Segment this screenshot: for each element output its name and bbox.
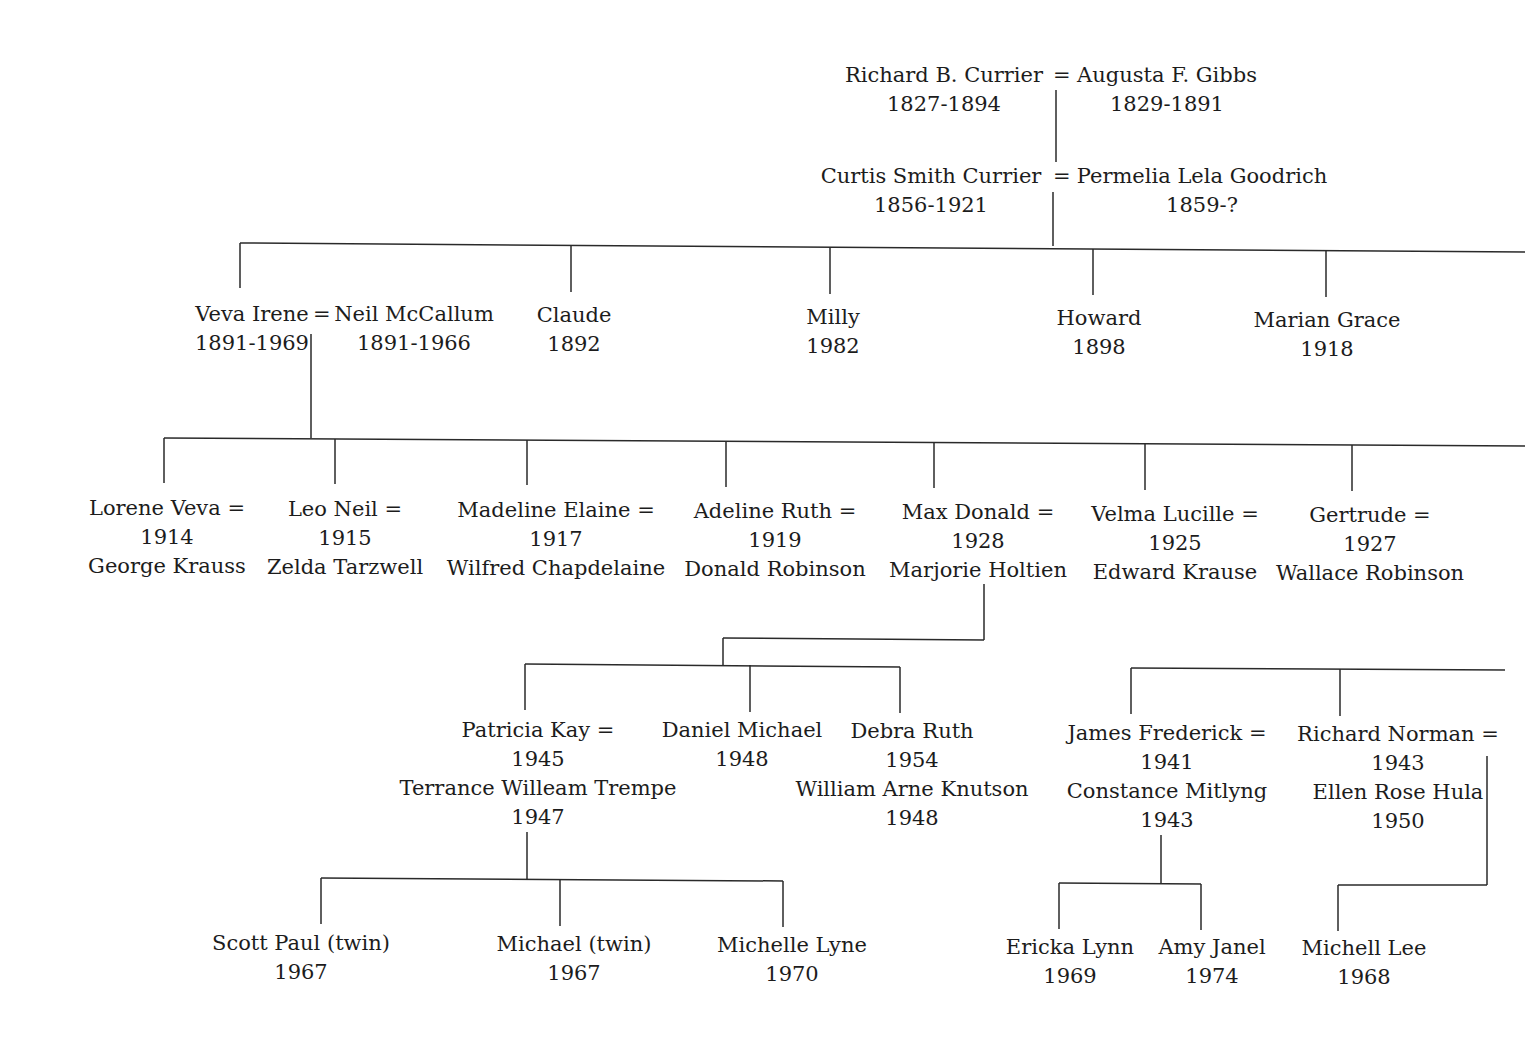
person-name: Richard Norman = bbox=[1297, 720, 1499, 749]
person-name: Richard B. Currier bbox=[844, 61, 1044, 90]
person-ericka-lynn: Ericka Lynn 1969 bbox=[1006, 933, 1134, 991]
person-dates: 1982 bbox=[806, 332, 860, 361]
person-name: Lorene Veva = bbox=[88, 494, 246, 523]
person-name: Marian Grace bbox=[1253, 306, 1400, 335]
person-lorene-veva: Lorene Veva = 1914 George Krauss bbox=[88, 494, 246, 581]
person-name: Patricia Kay = bbox=[400, 716, 677, 745]
person-veva-irene: Veva Irene 1891-1969 bbox=[190, 300, 314, 358]
spouse-dates: 1943 bbox=[1067, 806, 1268, 835]
person-dates: 1914 bbox=[88, 523, 246, 552]
person-augusta-f-gibbs: Augusta F. Gibbs 1829-1891 bbox=[1074, 61, 1260, 119]
person-dates: 1968 bbox=[1302, 963, 1427, 992]
person-dates: 1918 bbox=[1253, 335, 1400, 364]
spouse-name: William Arne Knutson bbox=[795, 775, 1028, 804]
spouse-name: Wilfred Chapdelaine bbox=[447, 554, 665, 583]
person-james-frederick: James Frederick = 1941 Constance Mitlyng… bbox=[1067, 719, 1268, 835]
person-madeline-elaine: Madeline Elaine = 1917 Wilfred Chapdelai… bbox=[447, 496, 665, 583]
person-richard-norman: Richard Norman = 1943 Ellen Rose Hula 19… bbox=[1297, 720, 1499, 836]
person-michell-lee: Michell Lee 1968 bbox=[1302, 934, 1427, 992]
person-dates: 1898 bbox=[1057, 333, 1142, 362]
person-dates: 1925 bbox=[1091, 529, 1259, 558]
person-marian-grace: Marian Grace 1918 bbox=[1253, 306, 1400, 364]
person-permelia-lela-goodrich: Permelia Lela Goodrich 1859-? bbox=[1074, 162, 1330, 220]
person-dates: 1827-1894 bbox=[844, 90, 1044, 119]
person-dates: 1917 bbox=[447, 525, 665, 554]
person-dates: 1829-1891 bbox=[1074, 90, 1260, 119]
person-michelle-lyne: Michelle Lyne 1970 bbox=[717, 931, 867, 989]
person-max-donald: Max Donald = 1928 Marjorie Holtien bbox=[889, 498, 1067, 585]
person-name: Milly bbox=[806, 303, 860, 332]
spouse-name: Zelda Tarzwell bbox=[267, 553, 423, 582]
person-dates: 1943 bbox=[1297, 749, 1499, 778]
person-name: Leo Neil = bbox=[267, 495, 423, 524]
person-dates: 1891-1969 bbox=[190, 329, 314, 358]
spouse-dates: 1948 bbox=[795, 804, 1028, 833]
person-neil-mccallum: Neil McCallum 1891-1966 bbox=[332, 300, 496, 358]
spouse-name: Ellen Rose Hula bbox=[1297, 778, 1499, 807]
person-michael: Michael (twin) 1967 bbox=[497, 930, 652, 988]
person-name: Debra Ruth bbox=[795, 717, 1028, 746]
person-amy-janel: Amy Janel 1974 bbox=[1158, 933, 1265, 991]
person-name: Gertrude = bbox=[1276, 501, 1464, 530]
person-adeline-ruth: Adeline Ruth = 1919 Donald Robinson bbox=[684, 497, 865, 584]
person-dates: 1859-? bbox=[1074, 191, 1330, 220]
person-name: Michell Lee bbox=[1302, 934, 1427, 963]
person-curtis-smith-currier: Curtis Smith Currier 1856-1921 bbox=[816, 162, 1046, 220]
person-name: Augusta F. Gibbs bbox=[1074, 61, 1260, 90]
person-gertrude: Gertrude = 1927 Wallace Robinson bbox=[1276, 501, 1464, 588]
person-name: Adeline Ruth = bbox=[684, 497, 865, 526]
person-dates: 1891-1966 bbox=[332, 329, 496, 358]
person-name: Claude bbox=[537, 301, 612, 330]
person-dates: 1919 bbox=[684, 526, 865, 555]
marriage-symbol: = bbox=[1053, 61, 1071, 90]
person-dates: 1967 bbox=[212, 958, 390, 987]
person-dates: 1969 bbox=[1006, 962, 1134, 991]
person-dates: 1954 bbox=[795, 746, 1028, 775]
person-name: Permelia Lela Goodrich bbox=[1074, 162, 1330, 191]
person-dates: 1974 bbox=[1158, 962, 1265, 991]
person-milly: Milly 1982 bbox=[806, 303, 860, 361]
person-name: Neil McCallum bbox=[332, 300, 496, 329]
person-howard: Howard 1898 bbox=[1057, 304, 1142, 362]
person-dates: 1941 bbox=[1067, 748, 1268, 777]
person-dates: 1892 bbox=[537, 330, 612, 359]
person-name: Michael (twin) bbox=[497, 930, 652, 959]
person-name: Madeline Elaine = bbox=[447, 496, 665, 525]
person-dates: 1856-1921 bbox=[816, 191, 1046, 220]
person-leo-neil: Leo Neil = 1915 Zelda Tarzwell bbox=[267, 495, 423, 582]
person-name: Max Donald = bbox=[889, 498, 1067, 527]
person-name: Michelle Lyne bbox=[717, 931, 867, 960]
person-patricia-kay: Patricia Kay = 1945 Terrance Willeam Tre… bbox=[400, 716, 677, 832]
marriage-symbol: = bbox=[1053, 162, 1071, 191]
person-dates: 1928 bbox=[889, 527, 1067, 556]
person-name: James Frederick = bbox=[1067, 719, 1268, 748]
spouse-name: Donald Robinson bbox=[684, 555, 865, 584]
spouse-dates: 1947 bbox=[400, 803, 677, 832]
person-scott-paul: Scott Paul (twin) 1967 bbox=[212, 929, 390, 987]
spouse-name: Edward Krause bbox=[1091, 558, 1259, 587]
person-claude: Claude 1892 bbox=[537, 301, 612, 359]
person-name: Veva Irene bbox=[190, 300, 314, 329]
person-dates: 1967 bbox=[497, 959, 652, 988]
marriage-symbol: = bbox=[313, 300, 331, 329]
person-name: Velma Lucille = bbox=[1091, 500, 1259, 529]
person-velma-lucille: Velma Lucille = 1925 Edward Krause bbox=[1091, 500, 1259, 587]
person-dates: 1970 bbox=[717, 960, 867, 989]
person-richard-b-currier: Richard B. Currier 1827-1894 bbox=[844, 61, 1044, 119]
person-name: Curtis Smith Currier bbox=[816, 162, 1046, 191]
spouse-name: Constance Mitlyng bbox=[1067, 777, 1268, 806]
person-dates: 1927 bbox=[1276, 530, 1464, 559]
person-dates: 1945 bbox=[400, 745, 677, 774]
person-name: Howard bbox=[1057, 304, 1142, 333]
spouse-name: Marjorie Holtien bbox=[889, 556, 1067, 585]
person-debra-ruth: Debra Ruth 1954 William Arne Knutson 194… bbox=[795, 717, 1028, 833]
spouse-name: Terrance Willeam Trempe bbox=[400, 774, 677, 803]
person-name: Amy Janel bbox=[1158, 933, 1265, 962]
person-name: Scott Paul (twin) bbox=[212, 929, 390, 958]
spouse-dates: 1950 bbox=[1297, 807, 1499, 836]
person-name: Ericka Lynn bbox=[1006, 933, 1134, 962]
spouse-name: Wallace Robinson bbox=[1276, 559, 1464, 588]
spouse-name: George Krauss bbox=[88, 552, 246, 581]
person-dates: 1915 bbox=[267, 524, 423, 553]
